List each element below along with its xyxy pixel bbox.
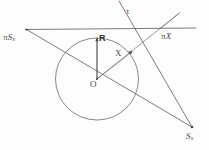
steep-line-through-x <box>119 1 192 127</box>
label-pi-sx: πSx <box>3 33 15 43</box>
chord-pisx-to-sx <box>27 30 193 128</box>
vertex-dot-sx <box>191 126 194 129</box>
vertex-dot-pisx <box>25 28 27 30</box>
label-sx-subscript: x <box>191 135 194 141</box>
label-pi-sx-subscript: x <box>12 36 15 42</box>
label-sx: Sx <box>186 132 193 142</box>
tangent-line-tau <box>26 28 197 30</box>
geometry-canvas <box>0 0 209 150</box>
label-tau: τ <box>126 7 130 16</box>
ray-pix-upper-right <box>160 13 180 30</box>
label-radius: R <box>99 34 106 43</box>
label-point-x: X <box>115 49 122 58</box>
label-pi-x-base: X <box>166 31 172 41</box>
geometry-figure: πSx τ πX R X O Sx <box>0 0 209 150</box>
label-pi-x: πX <box>161 32 171 41</box>
label-center-o: O <box>90 80 97 89</box>
label-tau-glyph: τ <box>126 6 130 16</box>
